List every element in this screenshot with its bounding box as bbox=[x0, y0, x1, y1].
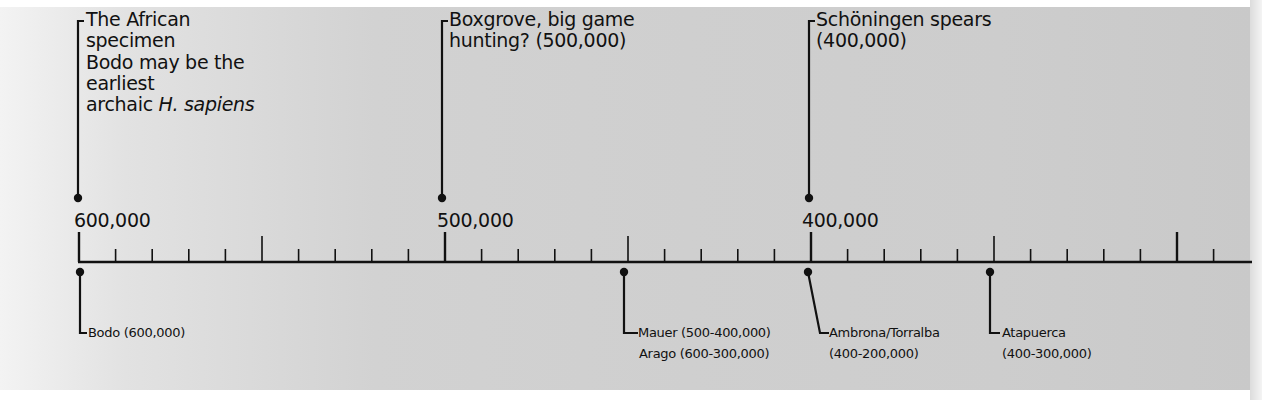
connector-schoningen bbox=[805, 21, 815, 202]
axis-ticks bbox=[79, 232, 1214, 262]
species-name: H. sapiens bbox=[159, 93, 255, 115]
label-text: archaic bbox=[86, 93, 159, 115]
label-line: (400-200,000) bbox=[829, 344, 940, 365]
axis-label-600000: 600,000 bbox=[74, 210, 150, 231]
event-label-boxgrove: Boxgrove, big game hunting? (500,000) bbox=[449, 9, 634, 52]
axis-label-400000: 400,000 bbox=[802, 210, 878, 231]
label-line: Bodo may be the bbox=[86, 52, 254, 73]
event-label-ambrona-torralba: Ambrona/Torralba (400-200,000) bbox=[829, 323, 940, 365]
connector-boxgrove bbox=[438, 21, 448, 202]
event-dot bbox=[805, 194, 813, 202]
label-line: (400-300,000) bbox=[1002, 344, 1092, 365]
connector-bodo-bottom bbox=[76, 268, 87, 333]
label-line: hunting? (500,000) bbox=[449, 30, 634, 51]
connector-mauer-arago bbox=[620, 268, 638, 333]
connector-atapuerca bbox=[986, 268, 1000, 333]
label-line: Boxgrove, big game bbox=[449, 9, 634, 30]
label-line: Atapuerca bbox=[1002, 323, 1092, 344]
label-line: Bodo (600,000) bbox=[88, 323, 185, 344]
event-label-schoningen: Schöningen spears (400,000) bbox=[816, 9, 991, 52]
event-label-atapuerca: Atapuerca (400-300,000) bbox=[1002, 323, 1092, 365]
label-line: specimen bbox=[86, 30, 254, 51]
label-line: earliest bbox=[86, 73, 254, 94]
axis-label-500000: 500,000 bbox=[437, 210, 513, 231]
event-label-mauer-arago: Mauer (500-400,000) Arago (600-300,000) bbox=[638, 323, 771, 365]
label-line: archaic H. sapiens bbox=[86, 94, 254, 115]
label-line: Ambrona/Torralba bbox=[829, 323, 940, 344]
event-dot bbox=[74, 194, 82, 202]
label-line: Schöningen spears bbox=[816, 9, 991, 30]
label-line: The African bbox=[86, 9, 254, 30]
connector-ambrona bbox=[804, 268, 829, 333]
event-label-bodo: Bodo (600,000) bbox=[88, 323, 185, 344]
event-label-bodo-african: The African specimen Bodo may be the ear… bbox=[86, 9, 254, 115]
event-dot bbox=[438, 194, 446, 202]
label-line: (400,000) bbox=[816, 30, 991, 51]
connector-bodo-top bbox=[74, 21, 84, 202]
label-line: Mauer (500-400,000) bbox=[638, 323, 771, 344]
label-line: Arago (600-300,000) bbox=[638, 344, 771, 365]
